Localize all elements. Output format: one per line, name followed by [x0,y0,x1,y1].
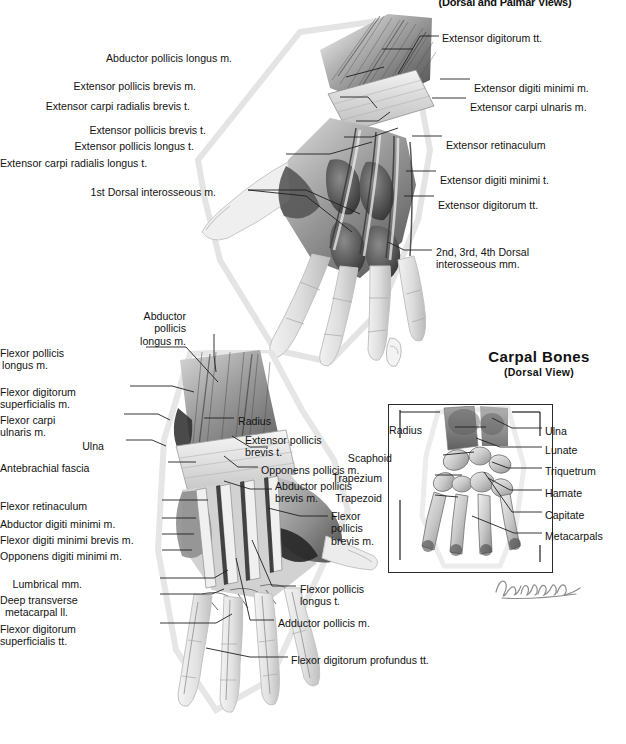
label-palmar-left-12: Flexor digitorum superficialis tt. [0,623,64,648]
label-dorsal-left-3: Extensor pollicis brevis t. [0,124,206,136]
label-carpal-right-5: Metacarpals [545,530,626,542]
inset-subtitle: (Dorsal View) [452,366,626,378]
anatomy-plate: (Dorsal and Palmar Views) Carpal Bones (… [0,0,626,744]
detached-fingertip-sketch [378,336,412,370]
label-dorsal-left-1: Extensor pollicis brevis m. [0,80,196,92]
label-carpal-right-0: Ulna [545,425,626,437]
label-palmar-left-8: Flexor digiti minimi brevis m. [0,534,10,546]
label-carpal-left-1: Scaphoid [0,452,392,464]
label-palmar-right-6: Adductor pollicis m. [278,617,626,629]
label-carpal-left-0: Radius [0,424,422,436]
label-dorsal-left-6: 1st Dorsal interosseous m. [0,186,216,198]
label-palmar-left-11: Deep transverse metacarpal ll. [0,594,68,619]
label-dorsal-left-5: Extensor carpi radialis longus t. [0,157,136,169]
label-carpal-right-3: Hamate [545,487,626,499]
label-dorsal-left-4: Extensor pollicis longus t. [0,140,194,152]
label-palmar-left-4: Ulna [0,440,104,452]
label-palmar-right-7: Flexor digitorum profundus tt. [291,654,626,666]
label-palmar-left-0: Abductor pollicis longus m. [0,310,186,347]
label-palmar-left-2: Flexor digitorum superficialis m. [0,386,26,411]
label-dorsal-right-3: Extensor retinaculum [446,139,626,151]
label-palmar-left-1: Flexor pollicis longus m. [0,347,48,372]
label-palmar-left-9: Opponens digiti minimi m. [0,550,22,562]
label-dorsal-right-4: Extensor digiti minimi t. [440,174,626,186]
label-dorsal-right-5: Extensor digitorum tt. [438,199,626,211]
inset-title: Carpal Bones [452,348,626,365]
label-carpal-right-2: Triquetrum [545,465,626,477]
label-carpal-left-2: Trapezium [0,472,382,484]
label-palmar-left-7: Abductor digiti minimi m. [0,518,28,530]
label-dorsal-right-0: Extensor digitorum tt. [442,32,626,44]
label-dorsal-right-2: Extensor carpi ulnaris m. [470,101,626,113]
label-dorsal-right-1: Extensor digiti minimi m. [474,82,626,94]
plate-subtitle: (Dorsal and Palmar Views) [384,0,626,8]
label-carpal-right-1: Lunate [545,444,626,456]
label-palmar-right-5: Flexor pollicis longus t. [300,583,626,608]
label-palmar-left-10: Lumbrical mm. [0,578,82,590]
label-dorsal-left-2: Extensor carpi radialis brevis t. [0,100,190,112]
label-carpal-left-3: Trapezoid [0,492,382,504]
label-dorsal-left-0: Abductor pollicis longus m. [0,52,232,64]
label-carpal-right-4: Capitate [545,509,626,521]
label-dorsal-right-6: 2nd, 3rd, 4th Dorsal interos­seous mm. [436,246,626,271]
